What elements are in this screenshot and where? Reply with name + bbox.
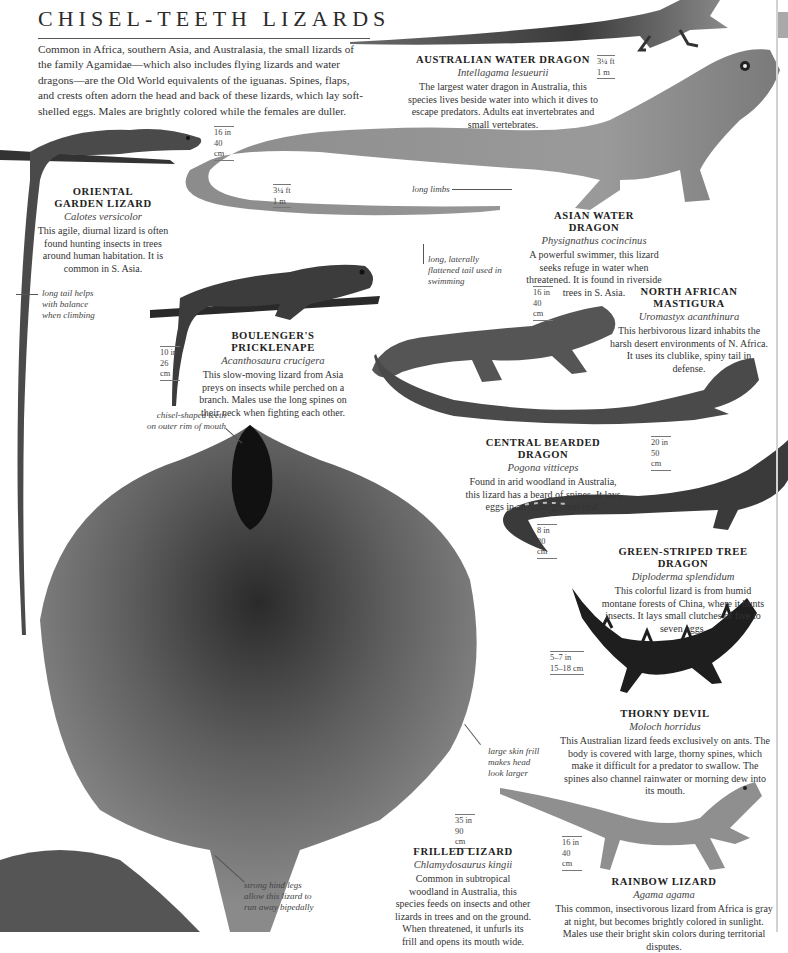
entry-oriental-garden-lizard: ORIENTALGARDEN LIZARD Calotes versicolor… [36, 186, 170, 275]
leader-line-long-limbs [452, 189, 512, 190]
entry-description: This common, insectivorous lizard from A… [552, 903, 776, 953]
entry-scientific-name: Chlamydosaurus kingii [395, 858, 531, 871]
size-scale-rainbow-lizard: 16 in 40 cm [562, 836, 582, 871]
entry-scientific-name: Intellagama lesueurii [408, 66, 598, 79]
page-margin-rule [776, 0, 778, 932]
entry-name: AUSTRALIAN WATER DRAGON [408, 54, 598, 66]
entry-name: CENTRAL BEARDED DRAGON [464, 437, 622, 461]
entry-name: FRILLED LIZARD [395, 846, 531, 858]
annotation-hind-legs: strong hind legs allow this lizard to ru… [244, 880, 320, 913]
entry-description: Found in arid woodland in Australia, thi… [464, 476, 622, 514]
entry-thorny-devil: THORNY DEVIL Moloch horridus This Austra… [560, 708, 770, 798]
entry-scientific-name: Agama agama [552, 888, 776, 901]
entry-name: THORNY DEVIL [560, 708, 770, 720]
leader-line-flattened-tail [423, 244, 424, 264]
entry-scientific-name: Pogona vitticeps [464, 461, 622, 474]
size-scale-boulengers-pricklenape: 10 in 26 cm [160, 346, 180, 381]
entry-description: The largest water dragon in Australia, t… [408, 81, 598, 131]
size-scale-australian-water-dragon: 3¼ ft 1 m [597, 55, 615, 79]
entry-green-striped-tree-dragon: GREEN-STRIPED TREE DRAGON Diploderma spl… [600, 546, 766, 635]
leader-line-long-tail [16, 294, 38, 295]
title-underline [38, 38, 370, 39]
annotation-chisel-teeth: chisel-shaped teeth on outer rim of mout… [146, 410, 226, 432]
size-scale-frilled-lizard: 35 in 90 cm [455, 814, 475, 849]
entry-description: This colorful lizard is from humid monta… [600, 585, 766, 635]
entry-scientific-name: Moloch horridus [560, 720, 770, 733]
entry-scientific-name: Uromastyx acanthinura [610, 310, 768, 323]
book-page: CHISEL-TEETH LIZARDS Common in Africa, s… [0, 0, 770, 932]
size-scale-green-striped-tree-dragon: 8 in 20 cm [537, 524, 557, 559]
entry-frilled-lizard: FRILLED LIZARD Chlamydosaurus kingii Com… [395, 846, 531, 949]
entry-name: NORTH AFRICAN MASTIGURA [610, 286, 768, 310]
size-scale-oriental-garden-lizard: 16 in 40 cm [214, 126, 234, 161]
entry-north-african-mastigura: NORTH AFRICAN MASTIGURA Uromastyx acanth… [610, 286, 768, 375]
size-scale-asian-water-dragon: 3¼ ft 1 m [273, 184, 291, 208]
entry-name: GREEN-STRIPED TREE DRAGON [600, 546, 766, 570]
entry-description: This Australian lizard feeds exclusively… [560, 735, 770, 798]
annotation-long-limbs: long limbs [412, 184, 452, 195]
size-scale-central-bearded-dragon: 20 in 50 cm [651, 436, 671, 471]
entry-scientific-name: Acanthosaura crucigera [198, 354, 348, 367]
entry-description: Common in subtropical woodland in Austra… [395, 873, 531, 949]
entry-central-bearded-dragon: CENTRAL BEARDED DRAGON Pogona vitticeps … [464, 437, 622, 514]
entry-australian-water-dragon: AUSTRALIAN WATER DRAGON Intellagama lesu… [408, 54, 598, 131]
entry-name: BOULENGER'SPRICKLENAPE [198, 330, 348, 354]
size-scale-thorny-devil: 5–7 in 15–18 cm [550, 651, 584, 675]
entry-scientific-name: Physignathus cocincinus [524, 234, 664, 247]
entry-name: ASIAN WATERDRAGON [524, 210, 664, 234]
chapter-edge-tab [778, 12, 788, 38]
entry-scientific-name: Calotes versicolor [36, 210, 170, 223]
annotation-flattened-tail: long, laterally flattened tail used in s… [428, 254, 504, 287]
entry-rainbow-lizard: RAINBOW LIZARD Agama agama This common, … [552, 876, 776, 953]
entry-boulengers-pricklenape: BOULENGER'SPRICKLENAPE Acanthosaura cruc… [198, 330, 348, 419]
entry-description: This herbivorous lizard inhabits the har… [610, 325, 768, 375]
entry-name: RAINBOW LIZARD [552, 876, 776, 888]
entry-name: ORIENTALGARDEN LIZARD [36, 186, 170, 210]
annotation-long-tail: long tail helps with balance when climbi… [42, 288, 108, 321]
entry-scientific-name: Diploderma splendidum [600, 570, 766, 583]
entry-description: This agile, diurnal lizard is often foun… [36, 225, 170, 275]
annotation-skin-frill: large skin frill makes head look larger [488, 746, 540, 779]
size-scale-north-african-mastigura: 16 in 40 cm [533, 286, 553, 321]
page-title: CHISEL-TEETH LIZARDS [38, 6, 390, 32]
